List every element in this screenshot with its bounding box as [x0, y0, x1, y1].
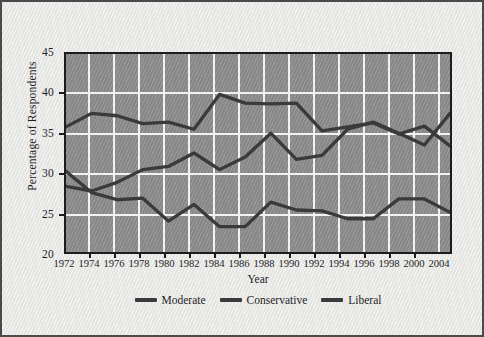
xtick-mark-1986	[239, 254, 241, 258]
legend-label-liberal: Liberal	[348, 294, 381, 306]
xtick-mark-1974	[89, 254, 91, 258]
legend-label-moderate: Moderate	[162, 294, 206, 306]
legend-item-moderate[interactable]: Moderate	[135, 294, 206, 306]
legend-item-liberal[interactable]: Liberal	[321, 294, 381, 306]
series-lines	[66, 54, 450, 252]
xtick-mark-1988	[264, 254, 266, 258]
y-axis-title: Percentage of Respondents	[26, 26, 38, 226]
legend-swatch-conservative	[220, 298, 242, 302]
line-moderate	[66, 94, 450, 145]
legend-label-conservative: Conservative	[247, 294, 308, 306]
xtick-mark-1982	[189, 254, 191, 258]
xtick-mark-1976	[114, 254, 116, 258]
xtick-label-2004: 2004	[422, 258, 456, 269]
xtick-mark-2000	[414, 254, 416, 258]
legend-item-conservative[interactable]: Conservative	[220, 294, 308, 306]
line-conservative	[66, 113, 450, 191]
xtick-mark-1980	[164, 254, 166, 258]
xtick-mark-1992	[314, 254, 316, 258]
xtick-mark-1998	[389, 254, 391, 258]
figure-canvas: 45 40 35 30 25 20	[2, 2, 482, 335]
xtick-mark-1996	[364, 254, 366, 258]
xtick-mark-1994	[339, 254, 341, 258]
legend-swatch-moderate	[135, 298, 157, 302]
xtick-mark-1990	[289, 254, 291, 258]
figure-container: 45 40 35 30 25 20	[0, 0, 484, 337]
xtick-mark-1984	[214, 254, 216, 258]
legend-swatch-liberal	[321, 298, 343, 302]
x-axis-title: Year	[64, 273, 452, 285]
xtick-mark-1978	[139, 254, 141, 258]
plot-area	[64, 52, 452, 254]
chart-legend: Moderate Conservative Liberal	[64, 294, 452, 306]
